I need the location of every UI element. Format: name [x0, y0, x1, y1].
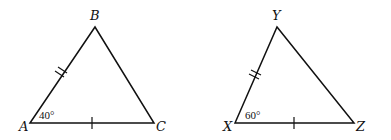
vertex-label-y: Y	[272, 8, 282, 23]
angle-label-x: 60°	[245, 109, 260, 121]
triangle-abc: A B C 40°	[18, 8, 166, 134]
vertex-label-b: B	[89, 8, 100, 23]
vertex-label-c: C	[156, 119, 166, 134]
angle-label-a: 40°	[39, 109, 54, 121]
vertex-label-z: Z	[355, 119, 366, 134]
vertex-label-a: A	[18, 119, 28, 134]
diagram-canvas: A B C 40° X Y Z 60°	[0, 0, 391, 140]
triangle-xyz: X Y Z 60°	[222, 8, 366, 134]
double-tick-mark-ab	[55, 67, 67, 77]
vertex-label-x: X	[222, 119, 233, 134]
double-tick-mark-xy	[249, 70, 261, 79]
